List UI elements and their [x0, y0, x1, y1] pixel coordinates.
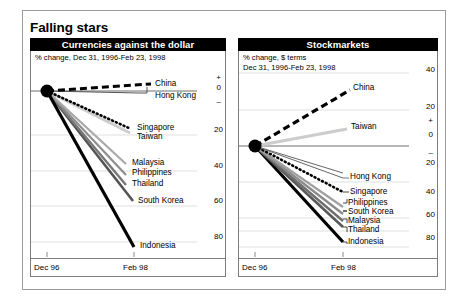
x-label-dec96: Dec 96 — [34, 263, 59, 272]
series-label-philippines: Philippines — [348, 198, 388, 207]
leader-malaysia — [343, 219, 347, 223]
series-label-singapore: Singapore — [350, 187, 387, 196]
x-tick-marks-stockmarkets — [239, 252, 439, 258]
axis-tick-minus80: 80 — [426, 234, 435, 242]
figure-title: Falling stars — [30, 20, 108, 35]
series-label-malaysia: Malaysia — [132, 158, 164, 167]
axis-tick-0: 0 — [217, 84, 221, 92]
axis-tick-minus40: 40 — [426, 188, 435, 196]
origin-marker — [249, 140, 262, 153]
series-label-china: China — [155, 79, 176, 88]
panel-body-stockmarkets: % change, $ terms Dec 31, 1996-Feb 23, 1… — [238, 51, 438, 277]
series-label-taiwan: Taiwan — [137, 132, 163, 141]
axis-tick-plus20: 20 — [426, 103, 435, 111]
series-label-singapore: Singapore — [137, 123, 174, 132]
series-label-indonesia: Indonesia — [348, 237, 384, 246]
chart-screenshot: Falling stars Currencies against the dol… — [0, 0, 469, 303]
origin-marker — [41, 85, 54, 98]
date-axis-currencies: Dec 96 Feb 98 — [31, 258, 225, 276]
axis-sign-minus: – — [429, 149, 433, 157]
panel-header-currencies: Currencies against the dollar — [30, 38, 226, 51]
axis-tick-plus40: 40 — [426, 66, 435, 74]
date-axis-stockmarkets: Dec 96 Feb 98 — [239, 258, 437, 276]
axis-tick-20: 20 — [214, 126, 223, 134]
series-line-malaysia — [47, 91, 126, 164]
panel-body-currencies: % change, Dec 31, 1996-Feb 23, 1998 — [30, 51, 226, 277]
series-label-philippines: Philippines — [132, 168, 172, 177]
x-tick-marks-currencies — [31, 252, 227, 258]
series-label-hong-kong: Hong Kong — [155, 91, 196, 100]
series-line-china — [47, 84, 151, 91]
series-line-indonesia — [255, 146, 343, 242]
series-label-thailand: Thailand — [348, 225, 379, 234]
axis-tick-0: 0 — [429, 131, 433, 139]
series-label-south-korea: South Korea — [138, 196, 184, 205]
panel-header-stockmarkets: Stockmarkets — [238, 38, 438, 51]
axis-tick-80: 80 — [214, 233, 223, 241]
value-axis-stockmarkets: 40 20 + 0 – 20 40 60 80 — [407, 51, 437, 276]
series-line-philippines — [255, 146, 343, 207]
panel-stockmarkets: Stockmarkets % change, $ terms Dec 31, 1… — [238, 38, 438, 277]
axis-tick-minus60: 60 — [426, 211, 435, 219]
series-label-malaysia: Malaysia — [348, 216, 380, 225]
axis-sign-plus: + — [216, 74, 221, 82]
x-label-feb98: Feb 98 — [123, 263, 148, 272]
axis-sign-minus: – — [217, 98, 221, 106]
axis-tick-40: 40 — [214, 162, 223, 170]
x-label-feb98: Feb 98 — [331, 263, 356, 272]
series-line-singapore — [47, 91, 131, 129]
panel-currencies: Currencies against the dollar % change, … — [30, 38, 226, 277]
leader-philippines — [343, 199, 347, 203]
axis-tick-60: 60 — [214, 197, 223, 205]
series-label-taiwan: Taiwan — [351, 122, 377, 131]
x-label-dec96: Dec 96 — [242, 263, 267, 272]
series-label-indonesia: Indonesia — [140, 241, 176, 250]
series-label-south-korea: South Korea — [348, 207, 394, 216]
series-label-china: China — [353, 83, 374, 92]
series-label-hong-kong: Hong Kong — [350, 172, 391, 181]
axis-sign-plus: + — [428, 117, 433, 125]
series-label-thailand: Thailand — [132, 179, 163, 188]
value-axis-currencies: + 0 – 20 40 60 80 — [195, 51, 225, 276]
axis-tick-minus20: 20 — [426, 159, 435, 167]
leader-indonesia — [343, 242, 347, 244]
